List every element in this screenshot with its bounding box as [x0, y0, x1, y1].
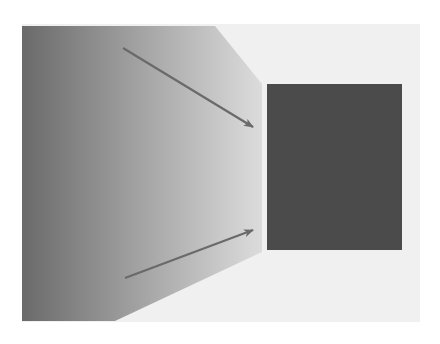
diagram-canvas: [0, 0, 440, 344]
projection-diagram: [0, 0, 440, 344]
target-rectangle: [267, 84, 402, 250]
